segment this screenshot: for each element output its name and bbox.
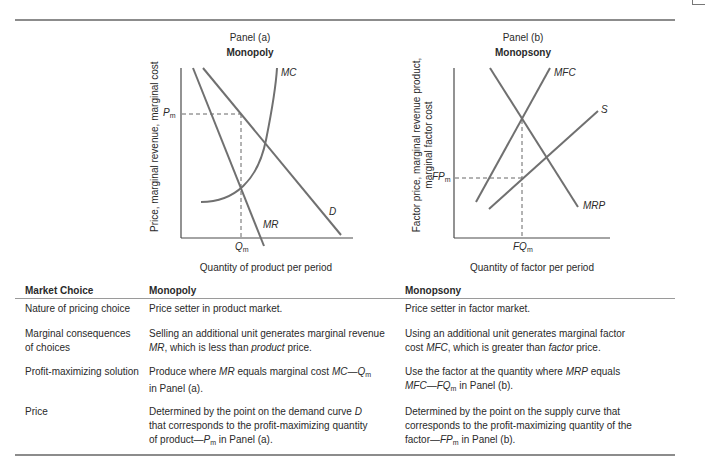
table-header-market-choice: Market Choice [25, 285, 93, 296]
row4-monopoly: Determined by the point on the demand cu… [149, 405, 367, 450]
mfc-label: MFC [554, 67, 576, 78]
panel-b-x-axis-label: Quantity of factor per period [432, 262, 632, 273]
row2-monopsony: Using an additional unit generates margi… [405, 327, 625, 355]
row4-monopsony: Determined by the point on the supply cu… [405, 405, 632, 450]
table-header-monopoly: Monopoly [149, 285, 196, 296]
panel-a-pm-label: Pm [163, 107, 176, 119]
row2-choice: Marginal consequences of choices [25, 327, 131, 355]
d-label: D [329, 206, 336, 217]
s-label: S [601, 104, 608, 115]
panel-b-axes [454, 68, 610, 238]
mc-label: MC [281, 67, 297, 78]
panel-b-fqm-label: FQm [513, 241, 533, 253]
row1-monopoly: Price setter in product market. [149, 302, 282, 316]
demand-curve [203, 68, 341, 235]
row1-choice: Nature of pricing choice [25, 302, 130, 316]
charts-svg [0, 0, 707, 468]
panel-a-guides [182, 114, 241, 237]
row2-monopoly: Selling an additional unit generates mar… [149, 327, 385, 355]
table-header-monopsony: Monopsony [405, 285, 461, 296]
mfc-curve [476, 68, 550, 202]
row3-monopsony: Use the factor at the quantity where MRP… [405, 365, 620, 396]
row3-monopoly: Produce where MR equals marginal cost MC… [149, 365, 371, 396]
panel-a-axes [181, 68, 353, 238]
row4-choice: Price [25, 405, 48, 419]
panel-b-fpm-label: FPm [432, 171, 451, 183]
mr-label: MR [263, 219, 279, 230]
panel-b-curves [476, 68, 598, 209]
panel-b-y-axis-label: Factor price, marginal revenue product, … [411, 55, 435, 235]
panel-a-x-axis-label: Quantity of product per period [166, 262, 366, 273]
row3-choice: Profit-maximizing solution [25, 365, 139, 379]
table-header-divider [15, 298, 675, 299]
marginal-revenue-curve [193, 68, 264, 246]
panel-a-y-axis-label: Price, marginal revenue, marginal cost [149, 62, 161, 232]
row1-monopsony: Price setter in factor market. [405, 302, 530, 316]
bottom-rule [15, 454, 675, 456]
supply-curve [489, 111, 598, 209]
mrp-label: MRP [583, 200, 605, 211]
panel-a-qm-label: Qm [235, 241, 249, 253]
mrp-curve [490, 68, 578, 207]
